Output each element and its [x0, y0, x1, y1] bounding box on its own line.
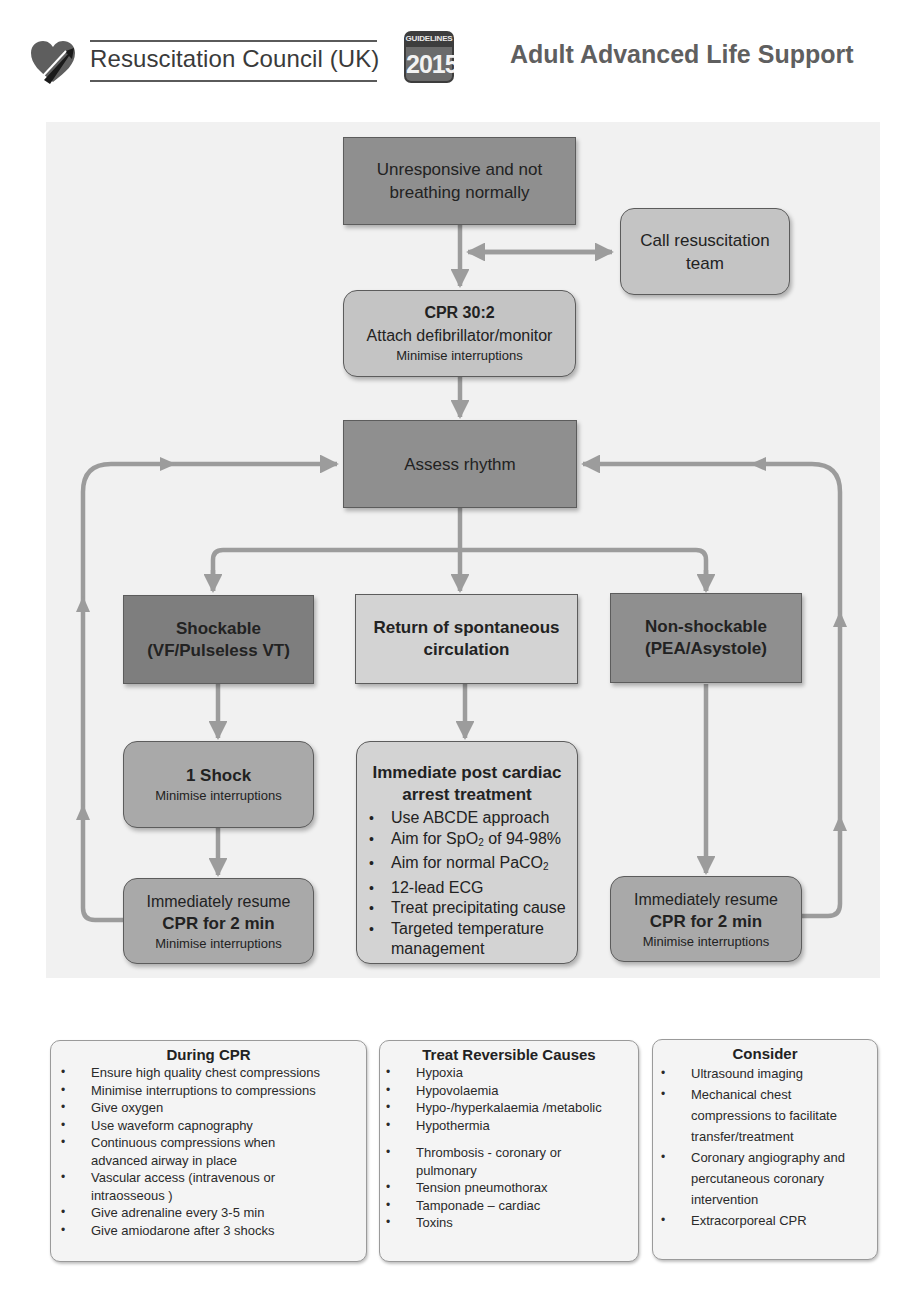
reversible-cause-item: Toxins: [384, 1214, 630, 1232]
during-cpr-item: Give adrenaline every 3-5 min: [59, 1204, 358, 1222]
resume-left-line3: Minimise interruptions: [155, 935, 281, 953]
shockable-line2: (VF/Pulseless VT): [147, 640, 290, 662]
shockable-line1: Shockable: [176, 618, 261, 640]
rosc-line2: circulation: [424, 639, 510, 661]
shock-box: 1 Shock Minimise interruptions: [123, 741, 314, 828]
non-shockable-line1: Non-shockable: [645, 616, 767, 638]
assess-rhythm-label: Assess rhythm: [404, 453, 515, 476]
call-team-line2: team: [686, 252, 724, 275]
resume-right-line1: Immediately resume: [634, 888, 778, 911]
unresponsive-line1: Unresponsive and not: [377, 158, 542, 181]
cpr-title: CPR 30:2: [424, 302, 494, 324]
resume-right-line3: Minimise interruptions: [643, 933, 769, 951]
shockable-box: Shockable (VF/Pulseless VT): [123, 595, 314, 684]
during-cpr-item: Vascular access (intravenous or intraoss…: [59, 1169, 358, 1204]
non-shockable-box: Non-shockable (PEA/Asystole): [610, 593, 802, 683]
resume-cpr-left-box: Immediately resume CPR for 2 min Minimis…: [123, 878, 314, 964]
rosc-line1: Return of spontaneous: [373, 617, 559, 639]
call-team-box: Call resuscitation team: [620, 208, 790, 295]
reversible-causes-title: Treat Reversible Causes: [388, 1046, 630, 1063]
resume-left-line1: Immediately resume: [146, 890, 290, 913]
shock-title: 1 Shock: [186, 765, 251, 787]
resume-left-line2: CPR for 2 min: [162, 913, 274, 935]
during-cpr-title: During CPR: [59, 1046, 358, 1063]
unresponsive-line2: breathing normally: [390, 181, 530, 204]
unresponsive-box: Unresponsive and not breathing normally: [343, 137, 576, 225]
post-arrest-item: Aim for normal PaCO2: [357, 853, 577, 878]
non-shockable-line2: (PEA/Asystole): [645, 638, 767, 660]
consider-box: Consider Ultrasound imaging Mechanical c…: [652, 1039, 878, 1260]
consider-item: Mechanical chest compressions to facilit…: [659, 1084, 869, 1147]
reversible-cause-item: Hypo-/hyperkalaemia /metabolic: [384, 1099, 630, 1117]
assess-rhythm-box: Assess rhythm: [343, 420, 577, 508]
resume-cpr-right-box: Immediately resume CPR for 2 min Minimis…: [610, 876, 802, 962]
reversible-cause-item: Tension pneumothorax: [384, 1179, 630, 1197]
reversible-cause-item: Hypothermia: [384, 1117, 630, 1135]
during-cpr-box: During CPR Ensure high quality chest com…: [50, 1040, 367, 1262]
shock-line2: Minimise interruptions: [155, 787, 281, 805]
post-arrest-item: Aim for SpO2 of 94-98%: [357, 829, 577, 854]
post-arrest-item: Use ABCDE approach: [357, 808, 577, 829]
reversible-cause-item: Tamponade – cardiac: [384, 1197, 630, 1215]
call-team-line1: Call resuscitation: [640, 229, 769, 252]
consider-list: Ultrasound imaging Mechanical chest comp…: [659, 1063, 869, 1231]
during-cpr-item: Use waveform capnography: [59, 1117, 358, 1135]
cpr-line3: Minimise interruptions: [396, 347, 522, 365]
rosc-box: Return of spontaneous circulation: [355, 594, 578, 684]
post-arrest-list: Use ABCDE approach Aim for SpO2 of 94-98…: [357, 808, 577, 960]
reversible-cause-item: Thrombosis - coronary or pulmonary: [384, 1144, 630, 1179]
reversible-cause-item: Hypoxia: [384, 1064, 630, 1082]
during-cpr-item: Ensure high quality chest compressions: [59, 1064, 358, 1082]
reversible-causes-list: Hypoxia Hypovolaemia Hypo-/hyperkalaemia…: [384, 1064, 630, 1232]
consider-item: Extracorporeal CPR: [659, 1210, 869, 1231]
cpr-line2: Attach defibrillator/monitor: [367, 324, 553, 347]
during-cpr-item: Continuous compressions when advanced ai…: [59, 1134, 358, 1169]
consider-title: Consider: [661, 1045, 869, 1062]
post-arrest-title1: Immediate post cardiac: [373, 762, 562, 784]
cpr-box: CPR 30:2 Attach defibrillator/monitor Mi…: [343, 290, 576, 377]
post-arrest-box: Immediate post cardiac arrest treatment …: [356, 741, 578, 964]
consider-item: Coronary angiography and percutaneous co…: [659, 1147, 869, 1210]
resume-right-line2: CPR for 2 min: [650, 911, 762, 933]
post-arrest-item: Treat precipitating cause: [357, 898, 577, 919]
during-cpr-item: Give amiodarone after 3 shocks: [59, 1222, 358, 1240]
reversible-cause-item: Hypovolaemia: [384, 1082, 630, 1100]
consider-item: Ultrasound imaging: [659, 1063, 869, 1084]
during-cpr-list: Ensure high quality chest compressions M…: [59, 1064, 358, 1239]
post-arrest-title2: arrest treatment: [402, 784, 531, 806]
during-cpr-item: Minimise interruptions to compressions: [59, 1082, 358, 1100]
post-arrest-item: 12-lead ECG: [357, 878, 577, 899]
during-cpr-item: Give oxygen: [59, 1099, 358, 1117]
post-arrest-item: Targeted temperature management: [357, 919, 577, 960]
reversible-causes-box: Treat Reversible Causes Hypoxia Hypovola…: [379, 1040, 639, 1262]
